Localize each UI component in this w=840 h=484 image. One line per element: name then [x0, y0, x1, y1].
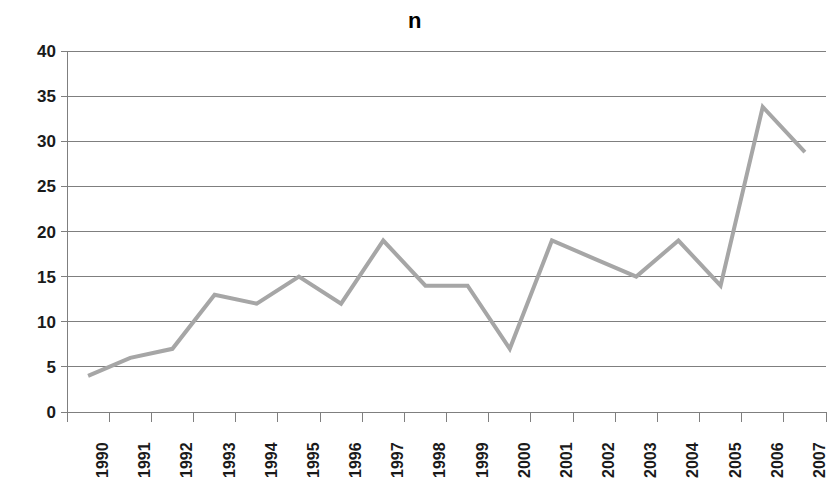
- x-axis-tick-label: 2002: [601, 442, 617, 478]
- gridlines: [67, 51, 826, 412]
- x-axis-tick-label: 2007: [812, 442, 828, 478]
- y-axis-tick-label: 40: [8, 43, 56, 60]
- x-axis-tick-label: 1990: [95, 442, 111, 478]
- y-axis-tick-label: 35: [8, 88, 56, 105]
- x-axis-tick-label: 1994: [264, 442, 280, 478]
- data-series-line: [88, 107, 805, 376]
- x-axis-tick-label: 2001: [559, 442, 575, 478]
- x-axis-tick-label: 1998: [432, 442, 448, 478]
- x-axis-tick-label: 2005: [728, 442, 744, 478]
- x-axis-tick-label: 1993: [222, 442, 238, 478]
- x-axis-tick-label: 2006: [770, 442, 786, 478]
- plot-area: [0, 0, 840, 484]
- x-axis-tick-label: 1995: [306, 442, 322, 478]
- x-axis-tick-label: 1992: [179, 442, 195, 478]
- y-axis-tick-label: 25: [8, 178, 56, 195]
- y-axis-tick-label: 20: [8, 224, 56, 241]
- x-axis-tick-label: 1991: [137, 442, 153, 478]
- y-axis-tick-label: 15: [8, 269, 56, 286]
- chart-container: n 0510152025303540 199019911992199319941…: [0, 0, 840, 484]
- y-axis-tick-label: 30: [8, 133, 56, 150]
- x-axis-tick-label: 2003: [643, 442, 659, 478]
- y-axis-tick-label: 5: [8, 359, 56, 376]
- x-axis-tick-label: 1999: [475, 442, 491, 478]
- axis-ticks: [61, 51, 826, 422]
- series-line-n: [88, 107, 805, 376]
- y-axis-tick-label: 0: [8, 404, 56, 421]
- x-axis-tick-label: 1996: [348, 442, 364, 478]
- x-axis-tick-label: 1997: [390, 442, 406, 478]
- x-axis-tick-label: 2000: [517, 442, 533, 478]
- x-axis-tick-label: 2004: [685, 442, 701, 478]
- y-axis-tick-label: 10: [8, 314, 56, 331]
